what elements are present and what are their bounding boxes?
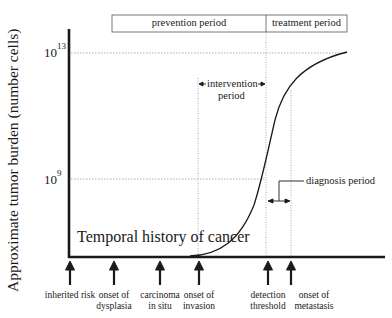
arrow-metastasis [287,261,296,285]
intervention-period-line1: intervention [207,79,258,90]
event-label-metastasis: onset ofmetastasis [288,290,340,312]
prevention-period-label: prevention period [112,18,266,29]
arrow-carcinoma [156,261,165,285]
event-label-dysplasia: onset ofdysplasia [88,290,140,312]
arrow-detection [264,261,273,285]
event-label-invasion: onset ofinvasion [173,290,225,312]
treatment-period-label: treatment period [266,18,347,29]
y-tick-10-13: 1013 [44,45,66,59]
y-tick-10-9: 109 [44,172,62,186]
arrow-invasion [195,261,204,285]
intervention-period-line2: period [218,91,245,102]
y-axis-label: Approximate tumor burden (number cells) [4,29,22,292]
diagnosis-period-label: diagnosis period [306,176,375,187]
event-arrows [66,261,296,285]
diagram-title: Temporal history of cancer [77,229,250,245]
arrow-inherited-risk [66,261,75,285]
event-label-detection: detectionthreshold [242,290,294,312]
diagnosis-bracket [268,181,304,203]
arrow-dysplasia [110,261,119,285]
